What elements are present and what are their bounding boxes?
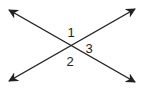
angle-label-1: 1 [67, 25, 74, 40]
angle-label-3: 3 [85, 41, 92, 56]
line-descending [9, 10, 135, 82]
line-ascending [9, 9, 135, 81]
angle-label-2: 2 [66, 54, 73, 69]
intersecting-lines-diagram: 1 3 2 [0, 0, 143, 91]
